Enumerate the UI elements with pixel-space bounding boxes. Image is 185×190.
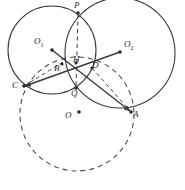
point-label-P: P [74,1,80,10]
point-label-O2: O2 [124,40,134,51]
point-label-O: O [65,111,72,120]
circle-circumcircle-O [20,57,134,171]
point-label-O1-subscript: 1 [41,42,44,48]
point-label-Q: Q [71,89,78,98]
point-label-O2-subscript: 2 [131,45,134,51]
geometry-canvas [0,0,185,190]
point-label-A: A [133,110,139,119]
point-dot-O1 [50,48,54,52]
segment-P-Q [76,14,78,88]
circle-O2 [65,0,175,108]
point-label-H: H [73,55,80,64]
point-label-C: C [12,81,18,90]
point-dot-O [77,110,81,114]
geometry-figure: P O1 O2 B H D C Q O A [0,0,185,190]
point-dot-O2 [118,50,122,54]
point-label-B: B [54,64,60,73]
point-dot-P [76,11,80,15]
point-dot-B [60,62,63,65]
point-dot-C [22,84,26,88]
segment-D-A [92,68,131,112]
point-label-O1: O1 [34,37,44,48]
point-label-D: D [92,61,99,70]
